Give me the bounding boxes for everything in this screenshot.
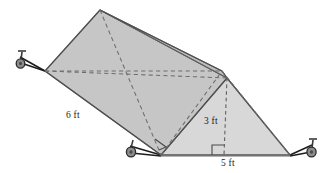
prism-diagram-svg (0, 0, 330, 173)
dimension-label-length: 6 ft (66, 110, 80, 120)
dimension-label-base: 5 ft (221, 158, 235, 168)
caster-wheel-front-right (290, 139, 317, 157)
prism-figure: 6 ft 3 ft 5 ft (0, 0, 330, 173)
dimension-label-height: 3 ft (204, 116, 218, 126)
caster-wheel-rear-left (16, 51, 45, 71)
